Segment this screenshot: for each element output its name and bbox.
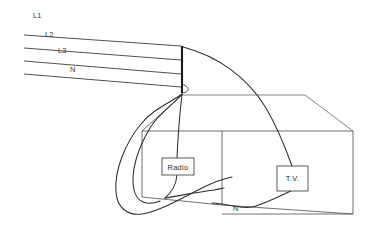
device-tv[interactable]: T.V. [277, 166, 308, 191]
cable-loop-inner [133, 94, 182, 203]
cable-radio-return [165, 175, 224, 198]
label-l1: L1 [33, 11, 42, 20]
radio-label: Radio [167, 163, 188, 172]
room-floor-front-edge [222, 205, 353, 214]
label-n: N [70, 65, 76, 74]
supply-line-l2 [24, 48, 181, 60]
tv-label: T.V. [286, 174, 299, 183]
supply-line-l3 [24, 61, 181, 74]
label-neutral-floor: N [233, 204, 239, 213]
cable-to-tv [183, 47, 292, 166]
overhead-supply-lines [24, 35, 188, 93]
device-radio[interactable]: Radio [162, 158, 194, 175]
room-roof-right-edge [305, 95, 353, 131]
supply-labels: L1 L2 L3 N [33, 11, 76, 74]
wiring-diagram: L1 L2 L3 N N Radio T.V. [0, 0, 367, 233]
label-l3: L3 [58, 46, 67, 55]
supply-line-n [24, 74, 181, 87]
label-l2: L2 [45, 30, 54, 39]
cable-to-radio [177, 94, 182, 158]
diagram-canvas: L1 L2 L3 N N Radio T.V. [0, 0, 367, 233]
